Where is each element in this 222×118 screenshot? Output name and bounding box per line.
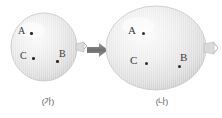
point-dot-c-small: [32, 57, 35, 60]
point-dot-b-large: [178, 65, 181, 68]
balloon-large: [104, 4, 220, 96]
balloon-nozzle-icon: [204, 42, 218, 54]
point-label-c-large: C: [130, 55, 137, 66]
point-label-c-small: C: [20, 51, 27, 61]
point-label-a-small: A: [18, 26, 25, 36]
balloon-expansion-figure: A C B: [0, 0, 222, 118]
point-dot-c-large: [145, 62, 148, 65]
point-label-b-small: B: [59, 49, 66, 59]
caption-balloon-large: (나): [120, 95, 204, 106]
balloon-large-shape: [104, 4, 220, 96]
point-label-a-large: A: [128, 25, 136, 36]
balloon-small-shape: [8, 10, 88, 88]
caption-balloon-small: (가): [12, 95, 84, 106]
point-dot-a-small: [30, 32, 33, 35]
balloon-small: [8, 10, 88, 88]
point-dot-b-small: [56, 60, 59, 63]
point-dot-a-large: [142, 32, 145, 35]
point-label-b-large: B: [180, 52, 187, 63]
